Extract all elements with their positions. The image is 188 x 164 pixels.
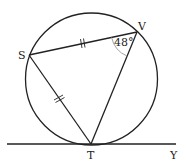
angle-label-48: 48° <box>114 36 134 49</box>
point-label-y: Y <box>169 149 178 162</box>
geometry-diagram: 48° S V T Y <box>0 0 188 164</box>
point-label-v: V <box>137 20 147 33</box>
diagram-svg: 48° S V T Y <box>0 0 188 164</box>
point-label-s: S <box>18 49 26 62</box>
point-label-t: T <box>87 149 95 162</box>
